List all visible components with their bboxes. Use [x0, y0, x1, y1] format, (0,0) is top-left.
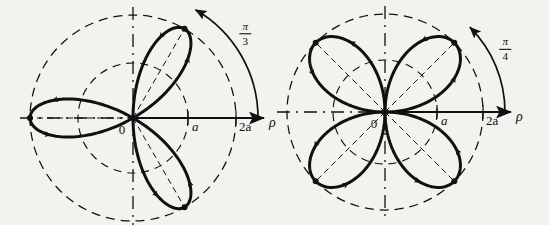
tick-label-a: a	[192, 119, 199, 134]
petal-0	[133, 27, 191, 118]
origin-marker	[130, 115, 135, 120]
petal-tip-marker-1	[27, 115, 33, 121]
tick-label-a: a	[441, 113, 448, 128]
panel-four-petal-rose: 0a2aρπ4	[277, 6, 523, 218]
petal-tip-marker-3	[451, 178, 457, 184]
origin-marker	[382, 109, 387, 114]
petal-tip-marker-2	[313, 178, 319, 184]
origin-label: 0	[119, 122, 126, 137]
angle-fraction-label: π3	[239, 20, 251, 47]
petal-2	[133, 118, 191, 209]
angle-denominator: 4	[502, 50, 508, 62]
angle-fraction-label: π4	[499, 35, 511, 62]
petal-axis-line-0	[385, 43, 454, 112]
petal-axis-line-1	[316, 43, 385, 112]
petal-tip-marker-1	[313, 40, 319, 46]
angle-arc	[196, 10, 259, 118]
rho-axis-label: ρ	[515, 109, 523, 124]
petal-tip-marker-2	[182, 204, 188, 210]
rho-axis-label: ρ	[268, 115, 276, 130]
angle-numerator: π	[243, 20, 249, 32]
angle-arc	[470, 27, 505, 112]
figure-canvas: 0a2aρπ3 0a2aρπ4	[0, 0, 549, 225]
petal-tip-marker-0	[182, 26, 188, 32]
origin-label: 0	[371, 116, 378, 131]
polar-rose-figure: 0a2aρπ3 0a2aρπ4	[0, 0, 549, 225]
angle-numerator: π	[502, 35, 508, 47]
tick-label-2a: 2a	[486, 113, 499, 128]
panel-three-petal-rose: 0a2aρπ3	[20, 7, 276, 225]
petal-tip-marker-0	[451, 40, 457, 46]
angle-denominator: 3	[243, 35, 249, 47]
tick-label-2a: 2a	[239, 119, 252, 134]
